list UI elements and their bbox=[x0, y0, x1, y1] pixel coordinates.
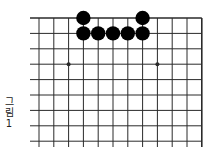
black-stone-icon bbox=[121, 26, 135, 40]
black-stone-icon bbox=[76, 26, 90, 40]
black-stone-icon bbox=[106, 26, 120, 40]
go-board-diagram bbox=[0, 0, 214, 162]
caption-char-3: 1 bbox=[2, 118, 16, 129]
black-stone-icon bbox=[76, 11, 90, 25]
caption-char-1: 그 bbox=[2, 96, 16, 107]
black-stone-icon bbox=[135, 26, 149, 40]
figure-caption: 그 림 1 bbox=[2, 96, 16, 129]
black-stone-icon bbox=[135, 11, 149, 25]
star-point-icon bbox=[67, 62, 71, 66]
star-point-icon bbox=[155, 62, 159, 66]
black-stone-icon bbox=[91, 26, 105, 40]
caption-char-2: 림 bbox=[2, 107, 16, 118]
